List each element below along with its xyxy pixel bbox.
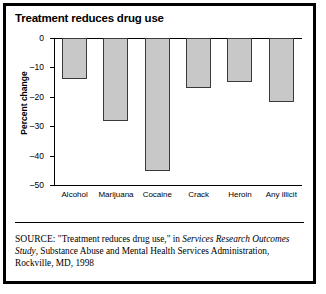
source-label: SOURCE: — [15, 233, 56, 244]
y-tick-label-0: 0 — [39, 33, 44, 43]
bar-alcohol[interactable] — [62, 38, 87, 79]
x-label-heroin: Heroin — [219, 190, 260, 199]
plot-area: Percent change 0 –10 –20 –30 –40 — [6, 30, 313, 205]
bar-slot-cocaine — [137, 38, 178, 186]
bar-any-illicit[interactable] — [269, 38, 294, 102]
y-tick-label-2: –20 — [30, 92, 44, 102]
figure-inner: Treatment reduces drug use Percent chang… — [6, 6, 313, 281]
figure-frame: Treatment reduces drug use Percent chang… — [3, 3, 316, 284]
y-axis-label: Percent change — [19, 63, 29, 143]
x-axis-labels: Alcohol Marijuana Cocaine Crack Heroin A… — [54, 190, 302, 199]
bar-series — [54, 38, 302, 186]
bar-heroin[interactable] — [227, 38, 252, 82]
bar-slot-alcohol — [54, 38, 95, 186]
bar-slot-heroin — [219, 38, 260, 186]
bar-slot-crack — [178, 38, 219, 186]
x-label-any-illicit: Any illicit — [261, 190, 302, 199]
source-note: SOURCE: "Treatment reduces drug use," in… — [15, 233, 304, 270]
source-divider — [15, 222, 304, 223]
chart-title: Treatment reduces drug use — [15, 12, 164, 24]
x-label-marijuana: Marijuana — [95, 190, 136, 199]
source-text-part2: , Substance Abuse and Mental Health Serv… — [15, 246, 269, 268]
x-label-alcohol: Alcohol — [54, 190, 95, 199]
bar-crack[interactable] — [186, 38, 211, 88]
y-tick-label-5: –50 — [30, 180, 44, 190]
bar-marijuana[interactable] — [103, 38, 128, 121]
x-label-cocaine: Cocaine — [137, 190, 178, 199]
axis-area: 0 –10 –20 –30 –40 –50 — [54, 38, 302, 186]
bar-slot-marijuana — [95, 38, 136, 186]
bar-slot-any-illicit — [261, 38, 302, 186]
x-label-crack: Crack — [178, 190, 219, 199]
y-tick-label-1: –10 — [30, 62, 44, 72]
y-tick-label-3: –30 — [30, 121, 44, 131]
y-tick-label-4: –40 — [30, 151, 44, 161]
bar-cocaine[interactable] — [145, 38, 170, 171]
source-text-part1: "Treatment reduces drug use," in — [56, 234, 183, 244]
